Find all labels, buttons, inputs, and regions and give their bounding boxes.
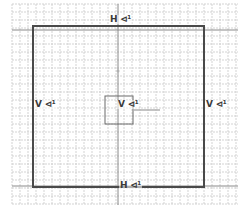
label-right: V ⊲¹: [205, 100, 227, 109]
anchor-dot: [117, 70, 120, 73]
label-bottom: H ⊲¹: [119, 181, 142, 190]
label-left: V ⊲¹: [34, 100, 56, 109]
label-center: V ⊲¹: [117, 100, 139, 109]
label-top: H ⊲¹: [109, 15, 132, 24]
